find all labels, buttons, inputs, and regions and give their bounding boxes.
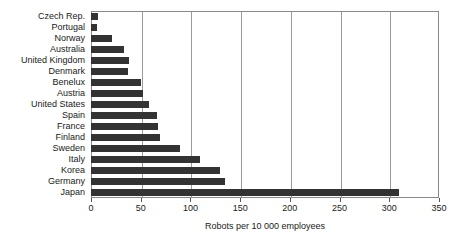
bar-row xyxy=(91,165,439,176)
bar xyxy=(91,35,112,42)
x-tick-label: 350 xyxy=(419,203,459,213)
bar xyxy=(91,101,149,108)
bar xyxy=(91,79,141,86)
y-axis-label: Australia xyxy=(0,44,88,55)
bar-row xyxy=(91,77,439,88)
x-tick xyxy=(141,198,142,202)
x-tick-label: 200 xyxy=(270,203,310,213)
y-axis-label: Portugal xyxy=(0,22,88,33)
bar-row xyxy=(91,132,439,143)
bar-row xyxy=(91,11,439,22)
bar-row xyxy=(91,187,439,198)
y-axis-label: Germany xyxy=(0,176,88,187)
bar xyxy=(91,46,124,53)
x-tick xyxy=(389,198,390,202)
x-tick xyxy=(190,198,191,202)
bar xyxy=(91,156,200,163)
bar-chart: Czech Rep.PortugalNorwayAustraliaUnited … xyxy=(0,0,461,244)
y-axis-label: Spain xyxy=(0,110,88,121)
bar xyxy=(91,145,180,152)
y-axis-label: Czech Rep. xyxy=(0,11,88,22)
bar-row xyxy=(91,22,439,33)
y-axis-label: United Kingdom xyxy=(0,55,88,66)
bar-row xyxy=(91,154,439,165)
x-tick xyxy=(439,198,440,202)
y-axis-label: Korea xyxy=(0,165,88,176)
x-tick-label: 250 xyxy=(320,203,360,213)
bar-row xyxy=(91,176,439,187)
bar-row xyxy=(91,99,439,110)
bar-row xyxy=(91,110,439,121)
y-axis-label: Italy xyxy=(0,154,88,165)
x-tick xyxy=(290,198,291,202)
x-tick-label: 50 xyxy=(121,203,161,213)
bar xyxy=(91,24,97,31)
bar xyxy=(91,90,143,97)
y-axis-label: United States xyxy=(0,99,88,110)
bar xyxy=(91,134,160,141)
y-axis-label: Sweden xyxy=(0,143,88,154)
bar-row xyxy=(91,88,439,99)
bar xyxy=(91,13,98,20)
y-axis-label: France xyxy=(0,121,88,132)
y-axis-label: Finland xyxy=(0,132,88,143)
bar xyxy=(91,167,220,174)
bar-row xyxy=(91,44,439,55)
y-axis-category-labels: Czech Rep.PortugalNorwayAustraliaUnited … xyxy=(0,11,88,198)
x-tick-label: 0 xyxy=(71,203,111,213)
x-axis-title: Robots per 10 000 employees xyxy=(91,221,439,231)
bar xyxy=(91,68,128,75)
bar-row xyxy=(91,55,439,66)
y-axis-label: Benelux xyxy=(0,77,88,88)
y-axis-label: Austria xyxy=(0,88,88,99)
x-tick-label: 100 xyxy=(170,203,210,213)
bar-row xyxy=(91,33,439,44)
bar-row xyxy=(91,66,439,77)
x-tick xyxy=(91,198,92,202)
y-axis-label: Denmark xyxy=(0,66,88,77)
x-tick-label: 300 xyxy=(369,203,409,213)
x-tick xyxy=(340,198,341,202)
x-tick-label: 150 xyxy=(220,203,260,213)
y-axis-label: Norway xyxy=(0,33,88,44)
bar-row xyxy=(91,143,439,154)
bar xyxy=(91,178,225,185)
bar-row xyxy=(91,121,439,132)
bars-layer xyxy=(91,11,439,198)
bar xyxy=(91,123,158,130)
bar xyxy=(91,189,399,196)
bar xyxy=(91,112,157,119)
y-axis-label: Japan xyxy=(0,187,88,198)
x-tick xyxy=(240,198,241,202)
bar xyxy=(91,57,129,64)
